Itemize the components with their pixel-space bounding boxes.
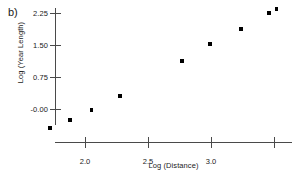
- x-tick-mark: [148, 137, 149, 148]
- x-tick-mark: [85, 137, 86, 148]
- scatter-plot-figure: b) 2.251.500.75-0.00 2.02.53.0 Log (Year…: [0, 0, 297, 177]
- y-tick-mark: [50, 77, 61, 78]
- x-tick-mark: [274, 137, 275, 148]
- data-point: [267, 11, 271, 15]
- data-point: [68, 118, 72, 122]
- y-tick-label: 1.50: [33, 41, 48, 50]
- y-axis-title: Log (Year Length): [16, 5, 25, 101]
- y-tick-mark: [50, 45, 61, 46]
- data-point: [90, 108, 94, 112]
- y-tick-label-wrap: -0.00: [0, 105, 48, 113]
- y-tick-label: -0.00: [30, 105, 48, 114]
- y-tick-label: 0.75: [33, 73, 48, 82]
- x-axis-title: Log (Distance): [55, 161, 292, 170]
- y-tick-mark: [50, 13, 61, 14]
- y-axis-spine: [55, 8, 56, 125]
- data-point: [180, 59, 184, 63]
- data-point: [239, 27, 243, 31]
- data-point: [208, 42, 212, 46]
- y-tick-label: 2.25: [33, 9, 48, 18]
- data-point: [275, 7, 279, 11]
- x-axis-spine: [55, 142, 292, 143]
- data-point: [118, 94, 122, 98]
- y-tick-mark: [50, 109, 61, 110]
- x-tick-mark: [211, 137, 212, 148]
- data-point: [48, 126, 52, 130]
